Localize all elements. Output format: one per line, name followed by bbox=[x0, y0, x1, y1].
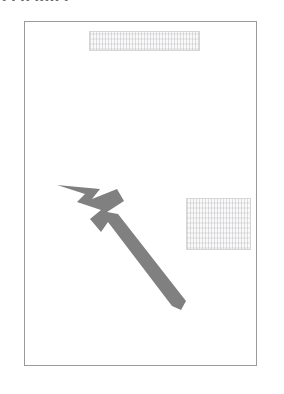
right-redacted-text-block bbox=[186, 198, 251, 250]
clipped-header-glyphs: • • •• ••••• • bbox=[2, 0, 69, 6]
top-redacted-text-block bbox=[89, 31, 200, 51]
document-page bbox=[24, 21, 257, 366]
clipped-header-text: • • •• ••••• • bbox=[0, 0, 284, 9]
